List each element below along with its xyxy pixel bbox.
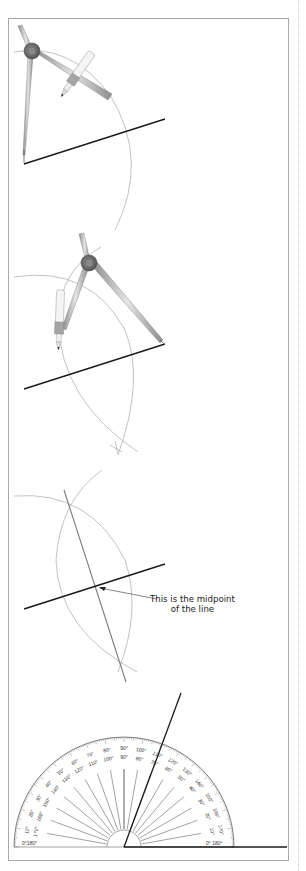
step-2-compass-second-arc [14,233,165,455]
annotation-line-2: of the line [150,604,235,614]
protractor-label: 90° [120,754,128,760]
midpoint-annotation: This is the midpoint of the line [150,594,235,614]
line-segment [24,119,165,164]
protractor: 10°170°20°160°30°150°40°140°50°130°60°12… [14,737,234,847]
pointer-arrow-icon [99,587,106,591]
pointer-line [100,588,157,599]
step-3-midpoint-construction [14,441,165,682]
protractor-left-base-label: 0°180° [22,840,37,846]
arc-2 [56,470,137,672]
compass-icon [54,233,165,350]
line-segment [24,344,165,389]
protractor-label: 90° [120,745,128,751]
protractor-label: 80° [103,746,111,753]
protractor-right-base-label: 0° 180° [206,840,223,846]
compass-icon [18,25,112,163]
protractor-label: 80° [135,755,143,762]
arc-cross-top-2 [115,441,118,454]
arc-2 [58,247,138,452]
annotation-line-1: This is the midpoint [150,594,235,604]
line-segment [24,564,165,609]
construction-diagram: 10°170°20°160°30°150°40°140°50°130°60°12… [0,0,306,871]
step-1-compass-first-arc [14,25,165,230]
